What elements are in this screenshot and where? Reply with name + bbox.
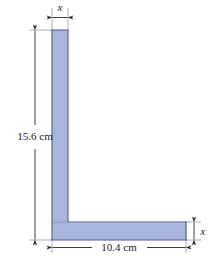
dimension-label-top-x: x bbox=[57, 1, 63, 13]
l-shape-dimension-diagram: x 15.6 cm 10.4 cm x bbox=[0, 0, 212, 267]
dimension-label-bottom-width: 10.4 cm bbox=[101, 241, 137, 253]
dimension-right-thickness: x bbox=[194, 223, 206, 240]
plate-outline bbox=[52, 30, 186, 240]
dimension-label-right-x: x bbox=[200, 225, 206, 237]
dimension-left-height: 15.6 cm bbox=[17, 31, 53, 240]
dimension-top-width: x bbox=[53, 1, 68, 18]
dimension-bottom-width: 10.4 cm bbox=[53, 241, 186, 253]
dimension-label-left-height: 15.6 cm bbox=[17, 130, 53, 142]
figure-caption-clipped bbox=[10, 255, 105, 264]
l-shape-plate bbox=[52, 30, 186, 240]
figure-root: x 15.6 cm 10.4 cm x bbox=[0, 0, 212, 267]
